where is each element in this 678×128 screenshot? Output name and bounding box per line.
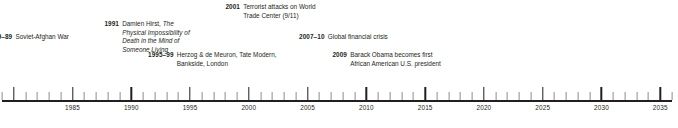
tick-mark — [578, 92, 579, 100]
timeline-entry-world-trade-center-attacks: 2001 Terrorist attacks on World Trade Ce… — [224, 3, 328, 20]
axis-minor-tick — [107, 92, 108, 100]
axis-tick-label: 2030 — [594, 104, 609, 111]
tick-mark — [260, 92, 261, 100]
tick-mark — [131, 87, 132, 100]
timeline-figure: 79–89 Soviet-Afghan War 1991 Damien Hirs… — [0, 0, 678, 128]
axis-minor-tick — [60, 92, 61, 100]
axis-tick-label: 2010 — [359, 104, 374, 111]
tick-mark — [119, 92, 120, 100]
entry-description: Damien Hirst, The Physical Impossibility… — [122, 20, 198, 54]
tick-mark — [237, 92, 238, 100]
axis-minor-tick — [519, 92, 520, 100]
timeline-entry-herzog-de-meuron: 1995–99 Herzog & de Meuron, Tate Modern,… — [148, 51, 277, 68]
axis-minor-tick — [201, 92, 202, 100]
axis-minor-tick — [284, 92, 285, 100]
axis-minor-tick — [237, 92, 238, 100]
tick-mark — [448, 92, 449, 100]
entry-description: Barack Obama becomes first African Ameri… — [350, 51, 450, 68]
entry-description: Global financial crisis — [328, 33, 420, 42]
axis-minor-tick — [178, 92, 179, 100]
tick-mark — [307, 87, 308, 100]
tick-mark — [472, 92, 473, 100]
entry-line: African American U.S. president — [350, 60, 441, 67]
tick-mark — [625, 92, 626, 100]
axis-minor-tick — [37, 92, 38, 100]
tick-mark — [295, 92, 296, 100]
axis-minor-tick — [331, 92, 332, 100]
axis-minor-tick — [143, 92, 144, 100]
tick-mark — [272, 92, 273, 100]
axis-minor-tick — [554, 92, 555, 100]
tick-mark — [72, 87, 73, 100]
tick-mark — [213, 92, 214, 100]
axis-minor-tick — [119, 92, 120, 100]
axis-minor-tick — [272, 92, 273, 100]
tick-mark — [636, 92, 637, 100]
tick-mark — [248, 87, 249, 100]
axis-minor-tick — [413, 92, 414, 100]
tick-mark — [342, 92, 343, 100]
timeline-axis: 1985199019952000200520102015202020252030… — [0, 86, 678, 128]
tick-mark — [25, 92, 26, 100]
axis-minor-tick — [636, 92, 637, 100]
axis-major-tick — [366, 87, 367, 100]
tick-mark — [354, 92, 355, 100]
axis-minor-tick — [25, 92, 26, 100]
tick-mark — [49, 92, 50, 100]
timeline-annotations: 79–89 Soviet-Afghan War 1991 Damien Hirs… — [0, 0, 678, 80]
axis-minor-tick — [495, 92, 496, 100]
tick-mark — [648, 92, 649, 100]
tick-mark — [566, 92, 567, 100]
tick-mark — [389, 92, 390, 100]
tick-mark — [60, 92, 61, 100]
entry-description: Herzog & de Meuron, Tate Modern, Banksid… — [177, 51, 277, 68]
tick-mark — [2, 92, 3, 100]
entry-description: Terrorist attacks on World Trade Center … — [243, 3, 328, 20]
axis-minor-tick — [96, 92, 97, 100]
axis-minor-tick — [319, 92, 320, 100]
axis-tick-label: 1990 — [124, 104, 139, 111]
axis-minor-tick — [401, 92, 402, 100]
timeline-entry-damien-hirst: 1991 Damien Hirst, The Physical Impossib… — [103, 20, 198, 54]
tick-mark — [554, 92, 555, 100]
entry-line: Soviet-Afghan War — [15, 33, 68, 40]
axis-major-tick — [131, 87, 132, 100]
entry-line: Herzog & de Meuron, — [177, 51, 238, 58]
axis-minor-tick — [295, 92, 296, 100]
axis-minor-tick — [166, 92, 167, 100]
tick-mark — [178, 92, 179, 100]
axis-tick-label: 2035 — [653, 104, 668, 111]
axis-minor-tick — [49, 92, 50, 100]
axis-major-tick — [483, 87, 484, 100]
axis-baseline — [2, 100, 672, 102]
axis-tick-label: 2005 — [300, 104, 315, 111]
tick-mark — [13, 87, 14, 100]
axis-tick-label: 2000 — [241, 104, 256, 111]
tick-mark — [424, 87, 425, 100]
tick-mark — [84, 92, 85, 100]
axis-minor-tick — [648, 92, 649, 100]
axis-major-tick — [424, 87, 425, 100]
axis-minor-tick — [213, 92, 214, 100]
tick-mark — [507, 92, 508, 100]
tick-mark — [366, 87, 367, 100]
entry-year: 79–89 — [0, 33, 15, 42]
entry-description: Soviet-Afghan War — [15, 33, 79, 42]
axis-major-tick — [601, 87, 602, 100]
axis-minor-tick — [84, 92, 85, 100]
entry-line: Trade Center (9/11) — [243, 12, 298, 19]
tick-mark — [401, 92, 402, 100]
axis-tick-label: 2020 — [477, 104, 492, 111]
timeline-entry-soviet-afghan-war: 79–89 Soviet-Afghan War — [0, 33, 79, 42]
axis-minor-tick — [225, 92, 226, 100]
axis-minor-tick — [154, 92, 155, 100]
entry-year: 1995–99 — [148, 51, 177, 60]
axis-minor-tick — [460, 92, 461, 100]
entry-line: Damien Hirst, — [122, 20, 162, 27]
entry-year: 1991 — [103, 20, 122, 29]
tick-mark — [143, 92, 144, 100]
axis-major-tick — [189, 87, 190, 100]
entry-line: Barack Obama becomes first — [350, 51, 432, 58]
axis-tick-label: 2015 — [418, 104, 433, 111]
tick-mark — [107, 92, 108, 100]
